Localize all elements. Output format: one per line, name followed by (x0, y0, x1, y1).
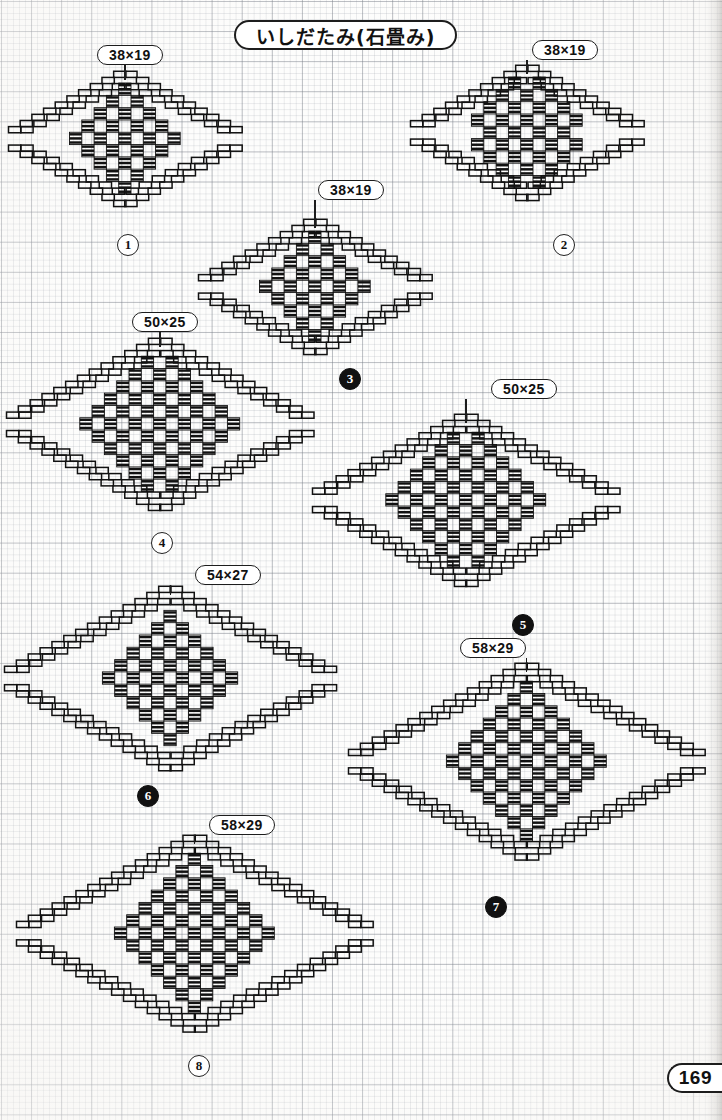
pattern-chart-5 (312, 423, 620, 577)
page-title: いしだたみ(石畳み) (234, 20, 457, 50)
size-label-4: 50×25 (132, 312, 198, 332)
size-label-3: 38×19 (318, 180, 384, 200)
pattern-diagram-4 (6, 347, 314, 501)
pattern-chart-8 (16, 844, 373, 1022)
pattern-diagram-8 (16, 844, 373, 1022)
size-label-7: 58×29 (460, 638, 526, 658)
pattern-diagram-5 (312, 423, 620, 577)
motif-number-badge-4: 4 (151, 532, 173, 554)
page-number: 169 (667, 1063, 722, 1093)
size-label-6: 54×27 (195, 565, 261, 585)
motif-number-badge-5: 5 (512, 614, 534, 636)
label-connector-8 (194, 835, 195, 844)
pattern-diagram-2 (410, 74, 644, 191)
motif-number-badge-6: 6 (137, 785, 159, 807)
pattern-chart-1 (8, 80, 242, 197)
pattern-chart-2 (410, 74, 644, 191)
motif-number-badge-7: 7 (485, 896, 507, 918)
pattern-diagram-1 (8, 80, 242, 197)
pattern-diagram-7 (348, 672, 705, 850)
label-connector-6 (170, 585, 171, 595)
pattern-chart-7 (348, 672, 705, 850)
motif-number-badge-8: 8 (188, 1055, 210, 1077)
size-label-8: 58×29 (209, 815, 275, 835)
size-label-2: 38×19 (532, 40, 598, 60)
label-connector-1 (124, 65, 125, 80)
pattern-chart-6 (4, 595, 336, 761)
label-connector-7 (526, 658, 527, 672)
label-connector-3 (314, 200, 315, 228)
size-label-5: 50×25 (491, 379, 557, 399)
label-connector-2 (526, 60, 527, 74)
motif-number-badge-3: 3 (339, 368, 361, 390)
pattern-diagram-3 (198, 228, 432, 345)
size-label-1: 38×19 (97, 45, 163, 65)
motif-number-badge-1: 1 (117, 234, 139, 256)
pattern-chart-3 (198, 228, 432, 345)
label-connector-4 (159, 332, 160, 347)
pattern-chart-4 (6, 347, 314, 501)
pattern-diagram-6 (4, 595, 336, 761)
label-connector-5 (465, 399, 466, 423)
motif-number-badge-2: 2 (553, 234, 575, 256)
